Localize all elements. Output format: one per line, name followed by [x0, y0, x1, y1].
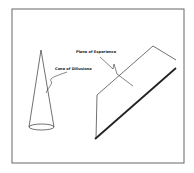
plane-leader-line — [100, 57, 133, 86]
cone-label: Cone of Dillusiona — [55, 67, 92, 71]
plane-label: Plane of Experience — [76, 50, 117, 54]
plane-front-edge — [95, 68, 176, 139]
plane-shape — [96, 46, 176, 139]
cone-leader-line — [46, 72, 67, 93]
diagram-frame — [12, 9, 184, 163]
cone-shape — [29, 50, 54, 130]
diagram-canvas: Cone of Dillusiona Plane of Experience — [0, 0, 194, 173]
